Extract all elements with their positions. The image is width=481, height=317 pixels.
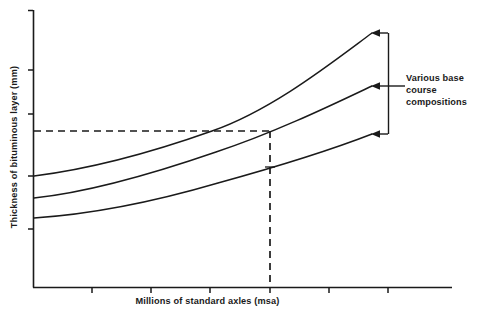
curve-series-3 — [34, 134, 372, 218]
annotation-line-2: course — [406, 85, 481, 97]
curve-series-1 — [34, 33, 372, 176]
annotation-line-3: compositions — [406, 97, 481, 109]
data-curves — [34, 33, 372, 218]
x-axis-title: Millions of standard axles (msa) — [0, 296, 415, 306]
chart-plot-area — [0, 0, 481, 317]
bracket-arrowhead-bottom — [371, 130, 380, 137]
y-axis-title-wrapper: Thickness of bituminous layer (mm) — [9, 47, 23, 247]
bracket-arrowhead-top — [371, 29, 380, 36]
annotation-line-1: Various base — [406, 73, 481, 85]
bracket-annotation-text: Various base course compositions — [406, 73, 481, 108]
chart-figure: Thickness of bituminous layer (mm) Milli… — [0, 0, 481, 317]
y-axis-title: Thickness of bituminous layer (mm) — [9, 47, 19, 247]
dashed-guides — [34, 131, 270, 287]
bracket-arrowhead-middle — [371, 82, 380, 89]
curve-series-2 — [34, 86, 372, 198]
y-axis-ticks — [28, 11, 33, 230]
bracket-annotation — [371, 29, 405, 137]
